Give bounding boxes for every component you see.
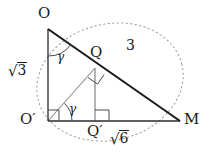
side-length-label-left: √3	[8, 62, 27, 79]
right-angle-marker-q	[88, 75, 104, 85]
side-length-label-base: √6	[110, 130, 129, 147]
radicand-sqrt3: 3	[17, 62, 28, 78]
right-angle-marker-qprime	[95, 110, 109, 121]
side-length-label-hypotenuse: 3	[126, 38, 135, 52]
vertex-label-Q-prime: Q′	[87, 124, 103, 139]
vertex-label-O-prime: O′	[20, 112, 36, 127]
radicand-sqrt6: 6	[119, 130, 130, 146]
diagram-canvas	[0, 0, 211, 166]
vertex-label-M: M	[184, 112, 199, 127]
vertex-label-Q: Q	[90, 45, 102, 60]
angle-label-gamma-top: γ	[57, 51, 64, 63]
vertex-label-O: O	[38, 6, 50, 21]
geometry-figure: O O′ M Q Q′ √3 3 √6 γ γ	[0, 0, 211, 166]
angle-label-gamma-bottom: γ	[69, 103, 76, 115]
